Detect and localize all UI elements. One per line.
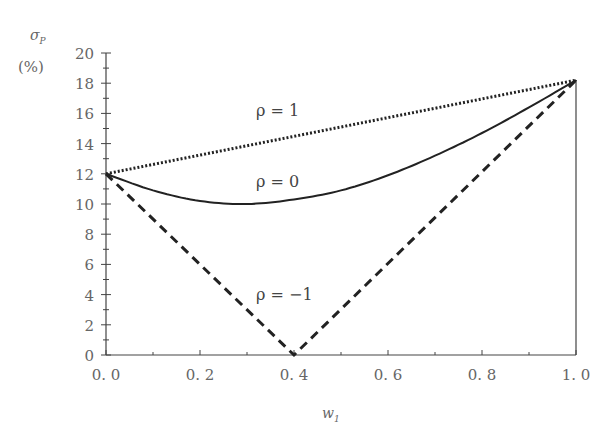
y-tick-label: 4 bbox=[84, 287, 94, 305]
x-axis-title: w1 bbox=[322, 405, 340, 424]
x-tick-label: 0. 6 bbox=[374, 366, 403, 384]
x-tick-label: 0. 8 bbox=[468, 366, 497, 384]
x-tick-label: 0. 2 bbox=[186, 366, 215, 384]
y-tick-labels: 02468101214161820 bbox=[75, 45, 94, 365]
y-axis-title: σP bbox=[30, 27, 47, 46]
label-rho-neg1: ρ = −1 bbox=[256, 285, 313, 304]
y-tick-label: 10 bbox=[75, 196, 94, 214]
axes bbox=[106, 53, 576, 355]
y-tick-label: 0 bbox=[84, 347, 94, 365]
label-rho-0: ρ = 0 bbox=[256, 172, 299, 191]
x-tick-label: 1. 0 bbox=[562, 366, 591, 384]
y-tick-label: 18 bbox=[75, 75, 94, 93]
x-tick-label: 0. 4 bbox=[280, 366, 309, 384]
x-ticks bbox=[106, 350, 576, 355]
x-tick-labels: 0. 00. 20. 40. 60. 81. 0 bbox=[92, 366, 591, 384]
y-tick-label: 16 bbox=[75, 105, 94, 123]
y-axis-unit: (%) bbox=[18, 58, 44, 76]
portfolio-risk-chart: 02468101214161820 0. 00. 20. 40. 60. 81.… bbox=[0, 0, 613, 441]
x-tick-label: 0. 0 bbox=[92, 366, 121, 384]
y-tick-label: 20 bbox=[75, 45, 94, 63]
series-rho-1 bbox=[106, 80, 576, 174]
y-ticks bbox=[101, 53, 111, 355]
y-tick-label: 6 bbox=[84, 256, 94, 274]
y-tick-label: 8 bbox=[84, 226, 94, 244]
y-tick-label: 14 bbox=[75, 136, 94, 154]
y-tick-label: 2 bbox=[84, 317, 94, 335]
series-rho-0 bbox=[106, 80, 576, 204]
y-tick-label: 12 bbox=[75, 166, 94, 184]
label-rho-1: ρ = 1 bbox=[256, 101, 299, 120]
